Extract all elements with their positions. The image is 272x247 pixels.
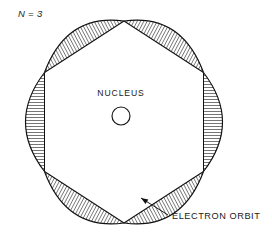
- nucleus-label: NUCLEUS: [97, 88, 144, 98]
- hatch-line: [58, 47, 65, 60]
- hatch-line: [62, 188, 70, 202]
- arrowhead-icon: [141, 198, 148, 204]
- hatch-line: [97, 21, 104, 34]
- hatch-line: [49, 62, 52, 68]
- hatch-line: [58, 184, 65, 197]
- hatch-line: [194, 178, 198, 185]
- hatch-line: [104, 20, 109, 30]
- hatch-line: [62, 42, 70, 56]
- hatch-line: [54, 53, 59, 63]
- hatch-line: [94, 22, 101, 36]
- hatch-line: [56, 183, 62, 194]
- orbit-outline-group: [26, 20, 223, 224]
- hatch-line: [144, 21, 151, 34]
- orbit-chord-segment: [124, 21, 204, 73]
- hatch-line: [146, 22, 153, 36]
- nucleus-circle: [112, 107, 130, 125]
- hatch-line: [97, 210, 104, 223]
- hatch-line: [184, 184, 191, 197]
- hatch-line: [144, 210, 151, 223]
- hatch-line: [131, 218, 134, 224]
- hatch-line: [64, 189, 72, 204]
- hatch-line: [86, 25, 94, 41]
- hatch-line: [64, 40, 72, 55]
- hatch-line: [114, 20, 117, 26]
- hatch-line: [176, 189, 184, 204]
- hatch-line: [186, 183, 192, 194]
- hatch-line: [174, 191, 182, 207]
- hatch-line: [141, 21, 147, 32]
- hatch-line: [92, 23, 100, 37]
- hatch-line: [134, 20, 138, 27]
- hatch-line: [196, 62, 199, 68]
- hatch-line: [110, 217, 114, 224]
- hatch-line: [139, 20, 144, 30]
- hatch-line: [186, 50, 192, 61]
- hatch-line: [131, 20, 134, 26]
- hatch-line: [86, 204, 94, 220]
- hatch-line: [56, 50, 62, 61]
- hatch-line: [176, 40, 184, 55]
- hatch-line: [89, 205, 97, 220]
- hatch-line: [101, 212, 107, 223]
- hatch-line: [194, 59, 198, 66]
- hatch-line: [151, 24, 159, 39]
- hatch-line: [154, 204, 162, 220]
- hatch-line: [174, 37, 182, 53]
- hatch-line: [141, 212, 147, 223]
- hatch-line: [66, 191, 74, 207]
- electron-orbit-label: ELECTRON ORBIT: [172, 211, 260, 221]
- orbit-chord-segment: [45, 21, 125, 73]
- hatch-line: [196, 176, 199, 182]
- hatch-line: [89, 24, 97, 39]
- hatch-line: [189, 53, 194, 63]
- hatch-line: [54, 181, 59, 191]
- hatch-line: [101, 21, 107, 32]
- hatch-line: [60, 44, 67, 58]
- orbit-chord-segment: [45, 172, 125, 224]
- hatch-line: [139, 213, 144, 223]
- hatch-line: [51, 59, 55, 66]
- hatch-line: [49, 176, 52, 182]
- hatch-line: [94, 209, 101, 223]
- chords-group: [45, 21, 204, 223]
- hatch-line: [146, 209, 153, 223]
- hatch-line: [149, 23, 157, 37]
- hatch-line: [60, 186, 67, 200]
- hatch-line: [134, 217, 138, 224]
- hatch-line: [110, 20, 114, 27]
- hatch-line: [51, 178, 55, 185]
- hatch-line: [154, 25, 162, 41]
- hatch-line: [179, 188, 187, 202]
- quantum-number-label: N = 3: [18, 8, 43, 19]
- hatch-line: [92, 207, 100, 221]
- hatch-line: [184, 47, 191, 60]
- electron-orbit-diagram: N = 3 NUCLEUS ELECTRON ORBIT: [0, 0, 272, 247]
- hatch-line: [149, 207, 157, 221]
- hatch-line: [114, 218, 117, 224]
- hatch-line: [66, 37, 74, 53]
- hatch-line: [181, 44, 188, 58]
- hatch-line: [179, 42, 187, 56]
- hatch-line: [189, 181, 194, 191]
- hatch-line: [104, 213, 109, 223]
- hatch-line: [181, 186, 188, 200]
